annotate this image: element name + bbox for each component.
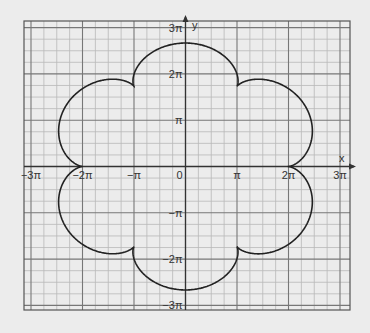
x-tick-label: −2π	[72, 169, 93, 181]
y-tick-label: 3π	[169, 22, 183, 34]
x-tick-label: 0	[176, 169, 182, 181]
x-tick-label: 2π	[282, 169, 296, 181]
y-tick-label: π	[175, 114, 183, 126]
x-axis-arrow-icon	[349, 164, 356, 170]
y-axis-arrow-icon	[183, 15, 189, 22]
chart: −3π−2π−π0π2π3π3π2ππ−π−2π−3π x y	[0, 0, 370, 333]
y-axis-label: y	[192, 19, 198, 31]
y-tick-label: −3π	[162, 299, 183, 311]
y-tick-label: −π	[168, 207, 182, 219]
minor-grid	[24, 21, 350, 310]
x-tick-label: −π	[127, 169, 141, 181]
x-tick-label: π	[233, 169, 241, 181]
y-tick-label: 2π	[169, 68, 183, 80]
y-tick-label: −2π	[162, 253, 183, 265]
x-tick-label: 3π	[333, 169, 347, 181]
x-axis-label: x	[339, 152, 345, 164]
x-tick-label: −3π	[21, 169, 42, 181]
